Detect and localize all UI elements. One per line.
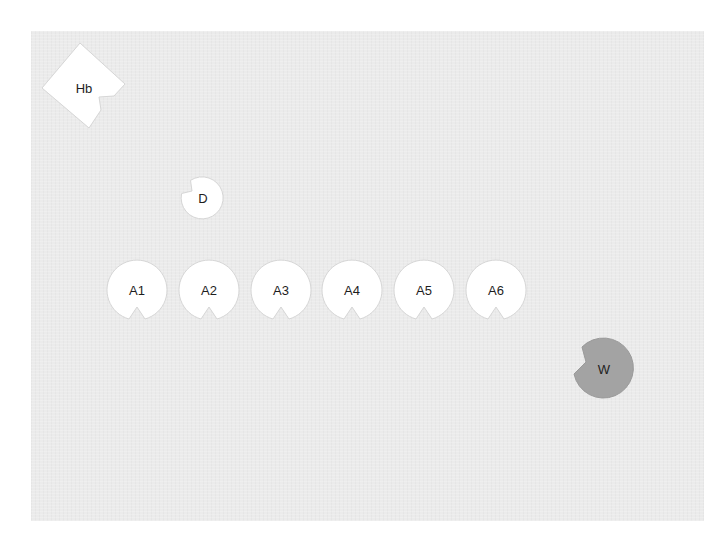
piece-a6[interactable]: A6: [466, 260, 526, 319]
piece-label: A2: [201, 283, 217, 298]
piece-label: D: [198, 191, 207, 206]
piece-a5[interactable]: A5: [394, 260, 454, 319]
pieces-layer: Hb D A1 A2 A3 A4 A5 A6 W: [0, 0, 727, 551]
piece-label: A5: [416, 283, 432, 298]
piece-a3[interactable]: A3: [251, 260, 311, 319]
piece-a1[interactable]: A1: [107, 260, 167, 319]
piece-label: A3: [273, 283, 289, 298]
piece-a2[interactable]: A2: [179, 260, 239, 319]
piece-label: A6: [488, 283, 504, 298]
piece-label: W: [598, 362, 611, 377]
piece-label: Hb: [76, 81, 93, 96]
piece-label: A4: [344, 283, 360, 298]
piece-a4[interactable]: A4: [322, 260, 382, 319]
piece-label: A1: [129, 283, 145, 298]
piece-d[interactable]: D: [181, 177, 223, 219]
piece-w[interactable]: W: [574, 338, 633, 398]
piece-hb[interactable]: Hb: [42, 43, 125, 128]
